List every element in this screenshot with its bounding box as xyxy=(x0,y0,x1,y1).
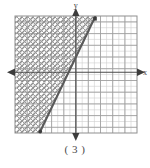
y-axis-label: y xyxy=(74,1,78,10)
line-endpoint-upper xyxy=(93,17,97,21)
figure-caption: ( 3 ) xyxy=(0,143,150,155)
y-axis-arrow-down xyxy=(72,133,79,141)
x-axis-label: x xyxy=(143,68,147,77)
graph-figure: y x ( 3 ) xyxy=(0,0,150,168)
x-axis-arrow-left xyxy=(7,69,15,76)
line-endpoint-lower xyxy=(38,130,42,134)
